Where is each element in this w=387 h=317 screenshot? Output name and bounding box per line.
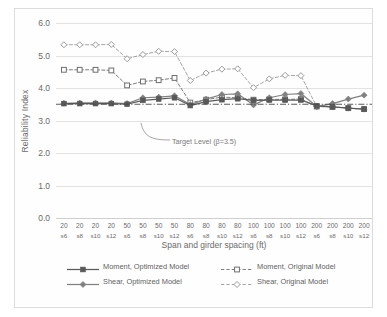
y-axis-tick: 3.0 [38,116,50,125]
x-tick-span: 200 [352,221,376,231]
legend-label: Shear, Optimized Model [103,277,182,286]
y-axis-tick: 0.0 [38,214,50,223]
gridline [56,121,372,122]
y-axis-title: Reliability Index [20,90,30,153]
legend-swatch [220,276,254,287]
y-axis-tick: 4.0 [38,84,50,93]
chart-legend: Moment, Optimized ModelShear, Optimized … [22,258,362,292]
gridline [56,88,372,89]
data-point-marker [80,281,86,287]
legend-swatch [66,261,100,272]
x-axis-tick-labels: 20s620s820s1020s1250s650s850s1050s1280s6… [56,221,372,241]
plot-area: 0.01.02.03.04.05.06.0 [56,23,372,218]
gridline [56,153,372,154]
legend-item[interactable]: Shear, Original Model [220,275,328,287]
legend-item[interactable]: Moment, Original Model [220,260,335,272]
legend-label: Shear, Original Model [257,277,328,286]
target-level-annotation: Target Level (β=3.5) [172,137,236,146]
data-point-marker [235,267,240,272]
data-point-marker [234,281,240,287]
data-point-marker [81,267,86,272]
x-tick-spacing: s12 [352,231,376,241]
y-axis-tick: 2.0 [38,149,50,158]
gridline [56,186,372,187]
legend-item[interactable]: Shear, Optimized Model [66,275,182,287]
legend-label: Moment, Optimized Model [103,262,189,271]
legend-label: Moment, Original Model [257,262,335,271]
y-axis-tick: 6.0 [38,19,50,28]
gridline [56,56,372,57]
y-axis-tick: 1.0 [38,181,50,190]
gridline [56,23,372,24]
legend-item[interactable]: Moment, Optimized Model [66,260,189,272]
legend-swatch [220,261,254,272]
x-axis-title: Span and girder spacing (ft) [56,240,372,250]
plot-gridlines: 0.01.02.03.04.05.06.0 [56,23,372,218]
gridline [56,218,372,219]
y-axis-tick: 5.0 [38,51,50,60]
x-axis-tick: 200s12 [352,221,376,240]
legend-swatch [66,276,100,287]
